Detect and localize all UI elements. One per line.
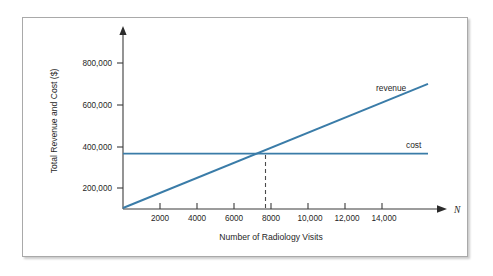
y-tick-label-200000: 200,000	[82, 184, 112, 193]
x-tick-label-2000: 2000	[151, 214, 170, 223]
y-axis-title: Total Revenue and Cost ($)	[49, 69, 59, 174]
y-tick-label-group: 800,000 600,000 400,000 200,000	[82, 59, 112, 193]
y-axis-group: 800,000 600,000 400,000 200,000 Total Re…	[49, 26, 127, 209]
figure-frame: 800,000 600,000 400,000 200,000 Total Re…	[22, 17, 468, 257]
x-tick-label-12000: 12,000	[334, 214, 359, 223]
series-group	[123, 84, 428, 209]
series-label-cost: cost	[406, 140, 422, 150]
x-axis-group: 2000 4000 6000 8000 10,000 12,000 14,000…	[123, 203, 461, 242]
x-axis-arrow-icon	[437, 205, 447, 213]
x-tick-label-14000: 14,000	[371, 214, 396, 223]
x-tick-label-group: 2000 4000 6000 8000 10,000 12,000 14,000	[151, 214, 397, 223]
chart-canvas: 800,000 600,000 400,000 200,000 Total Re…	[23, 18, 469, 258]
series-line-revenue	[123, 84, 428, 208]
y-axis-arrow-icon	[119, 26, 126, 35]
x-tick-group	[160, 203, 382, 209]
x-tick-label-6000: 6000	[225, 214, 244, 223]
x-tick-label-8000: 8000	[262, 214, 281, 223]
x-tick-label-10000: 10,000	[297, 214, 322, 223]
series-label-group: revenue cost	[376, 83, 422, 150]
x-axis-title: Number of Radiology Visits	[219, 232, 323, 242]
series-label-revenue: revenue	[376, 83, 407, 93]
y-tick-label-800000: 800,000	[82, 59, 112, 68]
x-axis-variable-label: N	[453, 205, 461, 215]
y-tick-label-600000: 600,000	[82, 101, 112, 110]
y-tick-group	[117, 63, 123, 188]
x-tick-label-4000: 4000	[188, 214, 207, 223]
y-tick-label-400000: 400,000	[82, 143, 112, 152]
